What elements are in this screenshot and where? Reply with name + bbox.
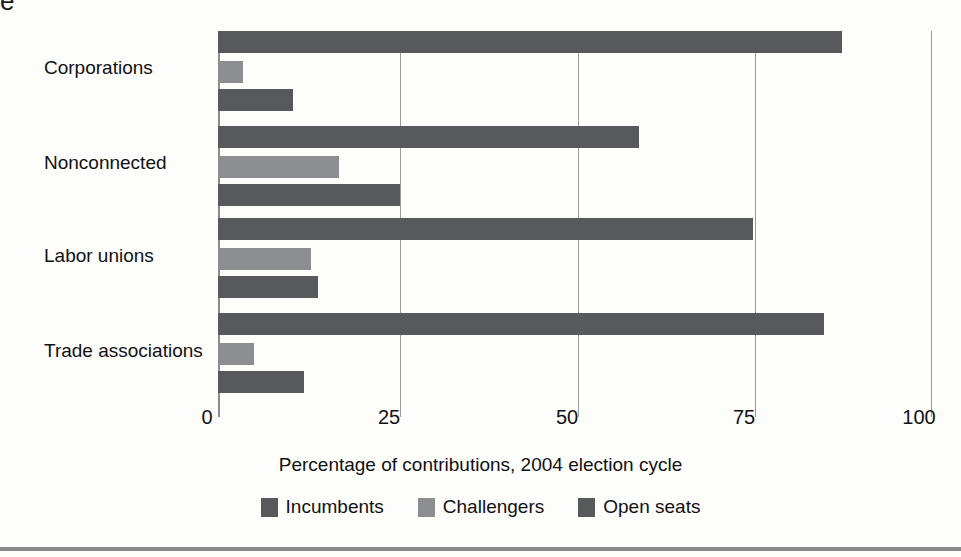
legend-item-challengers: Challengers [418,496,544,518]
group-nonconnected [218,126,931,216]
clipped-page-text-fragment: e [0,0,14,16]
gridline-100 [931,31,932,417]
bar-row-trade-associations-challengers [218,343,254,365]
xtick-25: 25 [378,406,400,429]
bar-nonconnected-open-seats [218,184,400,206]
bar-row-nonconnected-incumbents [218,126,639,148]
bar-row-labor-unions-openseats [218,276,318,298]
group-trade-associations [218,313,931,403]
bar-row-trade-associations-openseats [218,371,304,393]
bar-nonconnected-challengers [218,156,339,178]
bar-row-nonconnected-challengers [218,156,339,178]
bar-trade-associations-challengers [218,343,254,365]
bar-trade-associations-open-seats [218,371,304,393]
bar-row-corporations-openseats [218,89,293,111]
group-labor-unions [218,218,931,308]
xtick-100: 100 [902,406,935,429]
legend-swatch-open-seats-icon [578,498,595,517]
bar-row-trade-associations-incumbents [218,313,824,335]
bar-nonconnected-incumbents [218,126,639,148]
bar-row-labor-unions-challengers [218,248,311,270]
bar-corporations-incumbents [218,31,842,53]
xtick-50: 50 [556,406,578,429]
xtick-75: 75 [733,406,755,429]
group-corporations [218,31,931,121]
bar-labor-unions-incumbents [218,218,753,240]
bar-corporations-open-seats [218,89,293,111]
bar-trade-associations-incumbents [218,313,824,335]
legend-swatch-challengers-icon [418,498,435,517]
legend-label-incumbents: Incumbents [286,496,384,518]
legend-swatch-incumbents-icon [261,498,278,517]
legend-label-challengers: Challengers [443,496,544,518]
bar-labor-unions-open-seats [218,276,318,298]
legend-item-incumbents: Incumbents [261,496,384,518]
bar-labor-unions-challengers [218,248,311,270]
chart-legend: Incumbents Challengers Open seats [0,496,961,518]
legend-label-open-seats: Open seats [603,496,700,518]
bar-row-corporations-incumbents [218,31,842,53]
legend-item-open-seats: Open seats [578,496,700,518]
bar-row-nonconnected-openseats [218,184,400,206]
bar-row-labor-unions-incumbents [218,218,753,240]
bottom-rule-divider [0,547,961,551]
x-axis-title: Percentage of contributions, 2004 electi… [0,454,961,476]
bar-row-corporations-challengers [218,61,243,83]
xtick-0: 0 [201,406,212,429]
chart-page: e Corporations Nonconnected [0,0,961,557]
bar-corporations-challengers [218,61,243,83]
